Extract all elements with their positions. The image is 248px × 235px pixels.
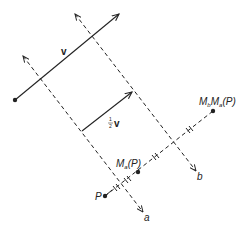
svg-text:2: 2 — [109, 123, 112, 129]
label-Ma-P: Ma(P) — [116, 158, 141, 170]
label-v: v — [61, 46, 67, 57]
mirror-line-a — [23, 56, 143, 212]
vector-half-v — [82, 92, 132, 131]
label-half-v: 1 2 v — [108, 116, 120, 129]
svg-text:v: v — [114, 118, 120, 129]
vector-v-origin-dot — [13, 98, 17, 102]
label-P: P — [95, 191, 102, 202]
svg-text:MbMa(P): MbMa(P) — [199, 96, 236, 108]
reflection-diagram: v 1 2 v P Ma(P) MbMa(P) a b — [0, 0, 248, 235]
tick-marks — [113, 126, 193, 191]
svg-text:1: 1 — [109, 116, 112, 122]
point-Ma-P — [136, 170, 140, 174]
label-line-a: a — [144, 212, 150, 223]
vector-v — [15, 14, 119, 100]
label-MbMa-P: MbMa(P) — [199, 96, 236, 108]
point-P — [103, 194, 107, 198]
point-MbMa-P — [211, 109, 215, 113]
label-line-b: b — [197, 171, 203, 182]
svg-text:Ma(P): Ma(P) — [116, 158, 141, 170]
point-path — [105, 111, 213, 196]
